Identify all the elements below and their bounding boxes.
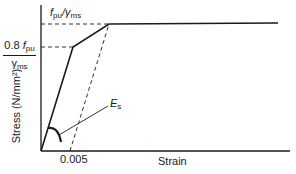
modulus-leader <box>59 106 108 135</box>
y-axis-label: Stress (N/mm²) <box>10 66 22 146</box>
modulus-label: Es <box>110 98 121 111</box>
top-level-label: fpu/γms <box>50 7 81 20</box>
x-tick-label: 0.005 <box>60 154 88 165</box>
offset-line <box>70 24 109 151</box>
x-axis-label: Strain <box>158 156 187 167</box>
design-curve <box>41 23 278 151</box>
stress-strain-plot <box>0 0 296 174</box>
